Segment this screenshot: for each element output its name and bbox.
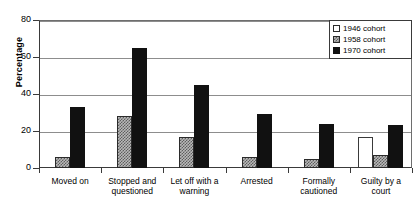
x-axis-labels: Moved onStopped and questionedLet off wi… <box>39 176 412 196</box>
bar <box>388 125 403 168</box>
bar <box>179 137 194 168</box>
y-tick-label: 20 <box>0 125 31 135</box>
x-tick-mark <box>412 168 413 173</box>
bar-group-bars <box>163 20 225 168</box>
x-tick-label: Arrested <box>226 176 288 196</box>
x-tick-label: Formally cautioned <box>288 176 350 196</box>
x-tick-mark <box>39 168 40 173</box>
legend-label-1946: 1946 cohort <box>343 24 385 33</box>
bar-group-bars <box>39 20 101 168</box>
x-tick-mark <box>226 168 227 173</box>
y-tick-label: 80 <box>0 14 31 24</box>
bar-group <box>101 20 163 168</box>
legend-label-1970: 1970 cohort <box>343 46 385 55</box>
bar <box>194 85 209 168</box>
bar-chart: Percentage 020406080 Moved onStopped and… <box>0 0 418 215</box>
bar-group <box>226 20 288 168</box>
bar-group <box>39 20 101 168</box>
bar <box>242 157 257 168</box>
x-tick-label: Guilty by a court <box>350 176 412 196</box>
x-tick-label: Stopped and questioned <box>101 176 163 196</box>
bar <box>319 124 334 168</box>
x-tick-label: Let off with a warning <box>163 176 225 196</box>
bar <box>117 116 132 168</box>
x-tick-mark <box>288 168 289 173</box>
bar-group <box>163 20 225 168</box>
legend-swatch-icon-1970 <box>333 47 340 54</box>
legend-swatch-icon-1946 <box>333 25 340 32</box>
bar <box>373 155 388 168</box>
bar <box>132 48 147 168</box>
bar-group-bars <box>101 20 163 168</box>
legend-item-1970: 1970 cohort <box>333 45 408 56</box>
y-tick-label: 0 <box>0 162 31 172</box>
legend-item-1958: 1958 cohort <box>333 34 408 45</box>
x-tick-mark <box>163 168 164 173</box>
legend-item-1946: 1946 cohort <box>333 23 408 34</box>
x-tick-label: Moved on <box>39 176 101 196</box>
bar-group-bars <box>226 20 288 168</box>
x-tick-mark <box>350 168 351 173</box>
bar <box>55 157 70 168</box>
x-tick-mark <box>101 168 102 173</box>
legend: 1946 cohort 1958 cohort 1970 cohort <box>329 20 412 59</box>
x-axis-ticks <box>39 168 412 174</box>
bar <box>358 137 373 168</box>
y-tick-label: 60 <box>0 51 31 61</box>
bar <box>257 114 272 168</box>
bar <box>70 107 85 168</box>
legend-label-1958: 1958 cohort <box>343 35 385 44</box>
y-tick-label: 40 <box>0 88 31 98</box>
legend-swatch-icon-1958 <box>333 36 340 43</box>
bar <box>304 159 319 168</box>
